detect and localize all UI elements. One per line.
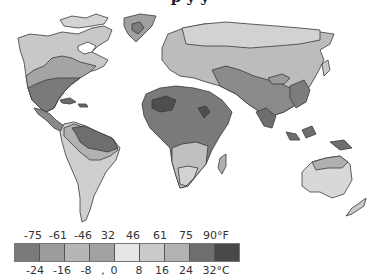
world-temperature-map xyxy=(0,0,380,230)
legend-f-label: 46 xyxy=(126,229,140,242)
legend-swatch xyxy=(190,244,215,261)
legend-c-label: 16 xyxy=(155,264,169,277)
legend-swatch xyxy=(115,244,140,261)
south-america-region xyxy=(60,122,120,222)
legend-c-label: -8 xyxy=(81,264,92,277)
legend-f-label: 32 xyxy=(101,229,115,242)
legend-c-label: -16 xyxy=(53,264,71,277)
legend-swatch xyxy=(65,244,90,261)
legend-f-label: 61 xyxy=(153,229,167,242)
legend-swatch xyxy=(215,244,239,261)
north-america-region xyxy=(18,14,112,132)
temperature-legend: -75 -61 -46 32 46 61 75 90°F -24 -16 -8 … xyxy=(0,228,250,280)
legend-f-label: -61 xyxy=(49,229,67,242)
legend-f-label: 90°F xyxy=(203,229,229,242)
fahrenheit-labels: -75 -61 -46 32 46 61 75 90°F xyxy=(0,229,250,243)
legend-c-label: , xyxy=(101,264,105,277)
legend-swatch xyxy=(165,244,190,261)
legend-swatch xyxy=(15,244,40,261)
legend-c-label: 0 xyxy=(111,264,118,277)
southeast-asia-islands xyxy=(286,126,352,150)
australia-region xyxy=(302,156,352,198)
new-zealand xyxy=(346,198,366,216)
legend-swatch xyxy=(140,244,165,261)
caribbean-islands xyxy=(60,98,88,107)
legend-c-label: 24 xyxy=(179,264,193,277)
legend-f-label: -75 xyxy=(24,229,42,242)
legend-c-label: -24 xyxy=(26,264,44,277)
legend-swatch xyxy=(90,244,115,261)
legend-swatch xyxy=(40,244,65,261)
africa-region xyxy=(142,86,232,188)
legend-color-bar xyxy=(14,243,240,262)
greenland-region xyxy=(124,14,156,42)
celsius-labels: -24 -16 -8 , 0 8 16 24 32°C xyxy=(0,264,250,278)
legend-c-label: 32°C xyxy=(202,264,229,277)
legend-f-label: 75 xyxy=(179,229,193,242)
legend-c-label: 8 xyxy=(136,264,143,277)
madagascar xyxy=(218,154,226,174)
legend-f-label: -46 xyxy=(74,229,92,242)
